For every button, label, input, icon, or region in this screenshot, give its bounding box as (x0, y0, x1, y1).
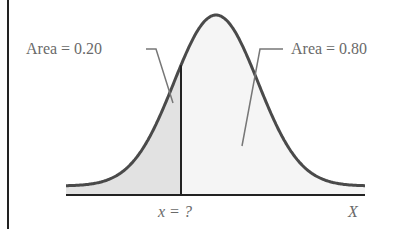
right-area-label: Area = 0.80 (291, 40, 367, 58)
axis-label: X (348, 203, 358, 221)
left-area-label: Area = 0.20 (26, 40, 102, 58)
normal-curve-chart (0, 0, 420, 229)
cutoff-label: x = ? (158, 203, 192, 221)
left-area-fill (66, 65, 181, 195)
